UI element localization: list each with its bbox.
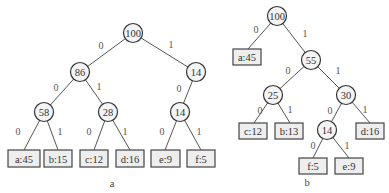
edge-bit-label: 0 <box>328 105 333 116</box>
tree-caption: a <box>110 178 115 189</box>
node-weight: 14 <box>175 107 186 118</box>
node-weight: 86 <box>75 67 86 78</box>
edge-bit-label: 1 <box>345 140 350 151</box>
leaf-label: c:12 <box>85 154 103 165</box>
edge-bit-label: 0 <box>54 82 59 93</box>
node-weight: 28 <box>103 107 114 118</box>
node-weight: 55 <box>306 55 317 66</box>
edge-bit-label: 1 <box>123 126 128 137</box>
tree-edge <box>133 33 196 72</box>
edge-bit-label: 0 <box>87 126 92 137</box>
huffman-tree-a: 010100101011008614582814a:45b:15c:12d:16… <box>8 24 215 189</box>
leaf-label: e:9 <box>343 161 356 172</box>
leaf-label: c:12 <box>244 126 262 137</box>
node-weight: 58 <box>39 107 50 118</box>
edge-bit-label: 1 <box>303 28 308 39</box>
edge-bit-label: 0 <box>177 83 182 94</box>
edge-bit-label: 1 <box>97 81 102 92</box>
edge-bit-label: 0 <box>311 140 316 151</box>
node-weight: 14 <box>191 67 202 78</box>
edge-bit-label: 1 <box>197 126 202 137</box>
leaf-label: b:13 <box>280 126 299 137</box>
leaf-label: e:9 <box>159 154 172 165</box>
edge-bit-label: 0 <box>286 65 291 76</box>
edge-bit-label: 0 <box>254 24 259 35</box>
huffman-tree-b: 010101010110055253014a:45c:12b:13d:16f:5… <box>233 7 384 188</box>
leaf-label: a:45 <box>238 52 256 63</box>
node-weight: 14 <box>322 125 333 136</box>
edge-bit-label: 1 <box>363 104 368 115</box>
edge-bit-label: 1 <box>336 65 341 76</box>
edge-bit-label: 1 <box>288 104 293 115</box>
leaf-label: a:45 <box>15 154 33 165</box>
edge-bit-label: 0 <box>160 126 165 137</box>
leaf-label: b:15 <box>49 154 68 165</box>
leaf-label: f:5 <box>195 154 207 165</box>
edge-bit-label: 0 <box>16 126 21 137</box>
leaf-label: f:5 <box>307 161 319 172</box>
edge-bit-label: 1 <box>58 126 63 137</box>
huffman-trees-diagram: 010100101011008614582814a:45b:15c:12d:16… <box>0 0 389 193</box>
edge-bit-label: 1 <box>169 39 174 50</box>
node-weight: 25 <box>268 90 279 101</box>
node-weight: 100 <box>125 28 141 39</box>
leaf-label: d:16 <box>121 154 140 165</box>
edge-bit-label: 0 <box>99 40 104 51</box>
node-weight: 100 <box>269 11 285 22</box>
leaf-label: d:16 <box>361 126 380 137</box>
tree-caption: b <box>304 177 309 188</box>
node-weight: 30 <box>341 90 352 101</box>
edge-bit-label: 0 <box>258 105 263 116</box>
